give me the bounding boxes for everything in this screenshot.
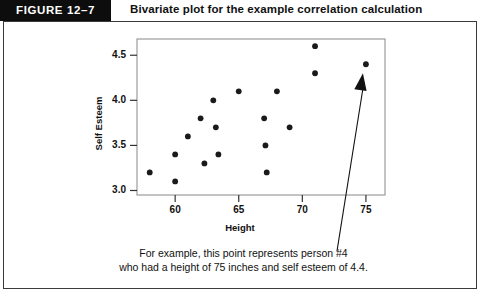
y-tick-label: 3.5 [98,139,126,150]
y-tick-label: 4.0 [98,94,126,105]
figure-number-label: FIGURE 12–7 [0,0,111,21]
y-tick-label: 4.5 [98,49,126,60]
x-tick-label: 65 [226,204,252,215]
y-tick-label: 3.0 [98,184,126,195]
x-tick-label: 75 [353,204,379,215]
figure-root: FIGURE 12–7 Bivariate plot for the examp… [0,0,487,296]
caption-line-1: For example, this point represents perso… [0,246,487,260]
x-tick-label: 70 [289,204,315,215]
figure-header: FIGURE 12–7 Bivariate plot for the examp… [0,0,487,21]
x-axis-title: Height [225,222,255,233]
x-tick-label: 60 [162,204,188,215]
caption-line-2: who had a height of 75 inches and self e… [0,260,487,274]
figure-caption: For example, this point represents perso… [0,246,487,274]
figure-title: Bivariate plot for the example correlati… [130,3,422,15]
